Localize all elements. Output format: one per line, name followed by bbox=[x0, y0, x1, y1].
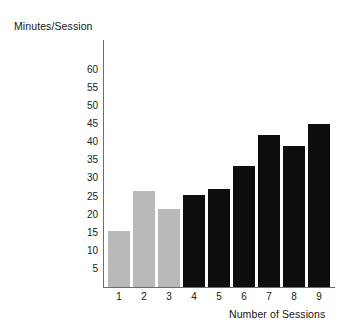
x-axis-tick-labels: 123456789 bbox=[0, 291, 364, 307]
bar bbox=[108, 231, 130, 287]
bar bbox=[258, 135, 280, 287]
bar-series bbox=[0, 0, 364, 329]
x-tick-label: 4 bbox=[183, 291, 205, 303]
bar bbox=[133, 191, 155, 287]
bar-chart: Minutes/Session 60555045403530252015105 … bbox=[0, 0, 364, 329]
bar bbox=[158, 209, 180, 287]
bar bbox=[308, 124, 330, 287]
x-tick-label: 2 bbox=[133, 291, 155, 303]
bar bbox=[183, 195, 205, 287]
x-tick-label: 1 bbox=[108, 291, 130, 303]
x-tick-label: 9 bbox=[308, 291, 330, 303]
bar bbox=[208, 189, 230, 287]
bar bbox=[283, 146, 305, 287]
bar bbox=[233, 166, 255, 287]
x-tick-label: 7 bbox=[258, 291, 280, 303]
x-tick-label: 6 bbox=[233, 291, 255, 303]
x-tick-label: 8 bbox=[283, 291, 305, 303]
x-axis-title: Number of Sessions bbox=[229, 308, 325, 320]
x-tick-label: 5 bbox=[208, 291, 230, 303]
x-tick-label: 3 bbox=[158, 291, 180, 303]
